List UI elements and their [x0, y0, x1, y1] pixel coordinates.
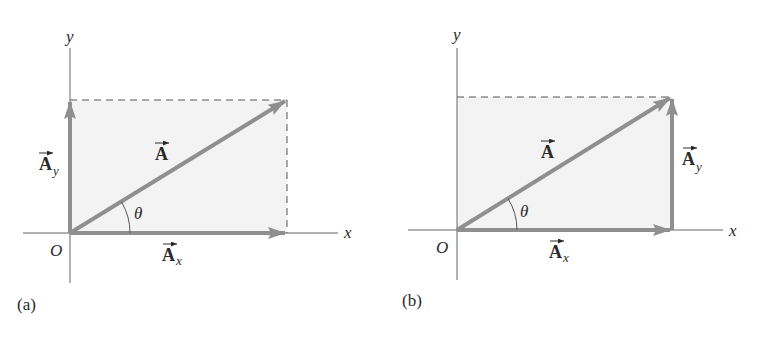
component-y-subscript: y — [694, 159, 702, 174]
x-axis-label: x — [343, 223, 352, 242]
panel-a: y x O θ A A y A x (a) — [17, 27, 352, 314]
panel-b-caption: (b) — [402, 291, 422, 310]
component-x-label: A — [162, 245, 175, 265]
x-axis-label: x — [728, 221, 737, 240]
angle-label: θ — [520, 202, 528, 221]
component-x-label: A — [549, 242, 562, 262]
component-x-subscript: x — [175, 253, 182, 268]
component-y-label: A — [39, 154, 52, 174]
component-x-subscript: x — [562, 250, 569, 265]
vector-components-figure: y x O θ A A y A x (a) y x O θ A — [0, 0, 757, 339]
component-y-label: A — [682, 149, 695, 169]
vector-a-label: A — [541, 142, 554, 162]
angle-label: θ — [134, 204, 142, 223]
component-y-subscript: y — [51, 163, 59, 178]
y-axis-label: y — [451, 25, 461, 44]
panel-a-caption: (a) — [17, 295, 36, 314]
origin-label: O — [436, 238, 448, 257]
panel-b: y x O θ A A y A x (b) — [402, 25, 737, 310]
origin-label: O — [50, 241, 62, 260]
vector-a-label: A — [155, 144, 168, 164]
y-axis-label: y — [64, 27, 74, 46]
